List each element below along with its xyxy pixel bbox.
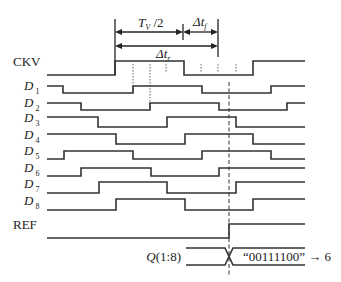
timing-diagram-canvas: TV /2 Δtf Δtr CKVD1D2D3D4D5D6D7D8REF Q(1… [0,0,341,282]
arrow-head-icon [183,29,190,35]
waveform-ref [47,224,305,238]
arrow-head-icon [176,29,183,35]
signal-waveforms [47,61,305,238]
fall-delay-label: Δtf [192,14,208,31]
bus-label: Q(1:8) [146,249,181,264]
waveform-d7 [47,182,305,193]
arrow-head-icon [115,29,122,35]
waveform-ckv [47,61,305,75]
output-bus: Q(1:8) “00111100” → 6 [146,248,331,265]
signal-label-d5: D5 [23,143,39,161]
half-period-label: TV /2 [138,15,164,32]
dimension-markers: TV /2 Δtf Δtr [115,14,218,75]
bus-value: “00111100” → 6 [243,249,332,264]
waveform-d2 [47,103,305,110]
waveform-d4 [47,134,305,144]
signal-label-d1: D1 [23,78,39,96]
signal-label-ref: REF [13,217,37,232]
waveform-d5 [47,151,305,159]
arrow-head-icon [115,43,122,49]
waveform-d6 [47,168,305,176]
signal-label-d8: D8 [23,193,39,211]
waveform-d1 [47,86,305,93]
arrow-head-icon [211,29,218,35]
waveform-d3 [47,117,305,127]
signal-label-ckv: CKV [13,54,41,69]
timing-diagram: TV /2 Δtf Δtr CKVD1D2D3D4D5D6D7D8REF Q(1… [0,0,341,282]
signal-labels: CKVD1D2D3D4D5D6D7D8REF [13,54,41,232]
signal-label-d7: D7 [23,176,39,194]
arrow-head-icon [211,43,218,49]
waveform-d8 [47,199,305,210]
